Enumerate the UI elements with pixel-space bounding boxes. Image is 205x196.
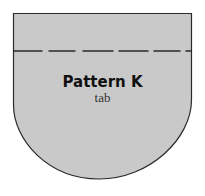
pattern-title: Pattern K xyxy=(0,74,205,90)
pattern-subtitle: tab xyxy=(0,91,205,105)
pattern-diagram: Pattern K tab xyxy=(0,0,205,196)
